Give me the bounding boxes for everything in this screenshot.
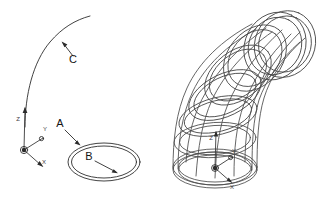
callout-label-a: A [56, 117, 64, 129]
callout-leader-a [65, 130, 81, 146]
model-axis-label-x: X [230, 184, 234, 190]
profile-axis-triad [20, 107, 43, 167]
callout-labels: A B C [56, 53, 92, 162]
engineering-diagram: A B C Z Y X Z Y X [0, 0, 327, 198]
callout-label-c: C [69, 53, 77, 65]
inner-profile-ellipse [72, 146, 137, 178]
model-axis-label-z: Z [209, 135, 213, 141]
sweep-path-curve [25, 16, 90, 127]
model-axis-label-y: Y [232, 148, 236, 154]
profile-axis-label-y: Y [43, 126, 47, 132]
callout-leader-b [95, 161, 118, 173]
callout-label-b: B [85, 150, 92, 162]
cross-section-rings [173, 1, 326, 161]
outer-profile-ellipse [68, 143, 140, 181]
profile-axis-label-x: X [42, 159, 46, 165]
profile-axis-label-z: Z [16, 116, 20, 122]
profile-ellipses [68, 143, 140, 181]
profile-panel [20, 16, 140, 181]
swept-tube-model [173, 1, 326, 188]
